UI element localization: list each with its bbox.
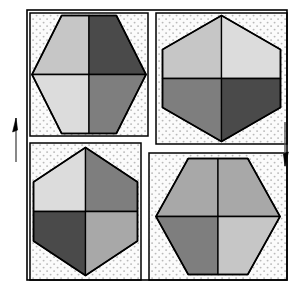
panel-top-left xyxy=(30,13,148,136)
panel-top-right xyxy=(156,13,287,144)
hexagon-tiling-figure xyxy=(0,0,299,290)
panel-bottom-left xyxy=(30,143,141,280)
figure-root xyxy=(0,0,299,290)
panel-bottom-right xyxy=(149,153,287,280)
